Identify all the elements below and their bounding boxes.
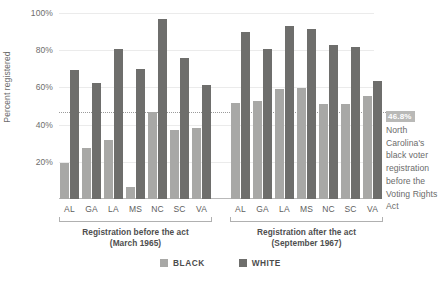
voter-registration-bar-chart: Percent registered 20%40%60%80%100% BLAC… bbox=[0, 0, 441, 285]
group-title-line-2: (September 1967) bbox=[211, 238, 402, 249]
x-tick-label: MS bbox=[124, 204, 148, 214]
legend-item: WHITE bbox=[239, 258, 281, 268]
group-bracket bbox=[59, 217, 212, 222]
x-tick-label: NC bbox=[317, 204, 341, 214]
bar bbox=[192, 128, 201, 199]
bar bbox=[253, 101, 262, 199]
bar bbox=[70, 70, 79, 199]
x-tick-label: LA bbox=[102, 204, 126, 214]
bar bbox=[341, 104, 350, 199]
bar bbox=[180, 58, 189, 199]
bar bbox=[82, 148, 91, 199]
bar bbox=[373, 81, 382, 199]
bar bbox=[329, 45, 338, 199]
group-title-line-1: Registration after the act bbox=[211, 227, 402, 238]
x-tick-label: NC bbox=[146, 204, 170, 214]
reference-annotation-text: North Carolina's black voter registratio… bbox=[386, 124, 441, 213]
bar bbox=[263, 49, 272, 199]
x-tick-label: AL bbox=[58, 204, 82, 214]
reference-value-badge: 46.8% bbox=[386, 111, 415, 122]
bar bbox=[60, 163, 69, 199]
group-title: Registration after the act(September 196… bbox=[211, 227, 402, 249]
bar bbox=[231, 103, 240, 199]
bar bbox=[202, 85, 211, 199]
bar bbox=[319, 104, 328, 199]
group-title: Registration before the act(March 1965) bbox=[40, 227, 231, 249]
x-tick-label: VA bbox=[361, 204, 385, 214]
group-title-line-1: Registration before the act bbox=[40, 227, 231, 238]
bar bbox=[170, 130, 179, 199]
bar bbox=[363, 96, 372, 199]
bar bbox=[275, 89, 284, 199]
bar bbox=[297, 88, 306, 199]
bar bbox=[241, 32, 250, 199]
bar-group bbox=[60, 13, 214, 199]
y-tick-label: 20% bbox=[36, 158, 53, 167]
y-tick-label: 40% bbox=[36, 120, 53, 129]
reference-annotation: 46.8% North Carolina's black voter regis… bbox=[386, 105, 441, 213]
bar bbox=[114, 49, 123, 199]
group-bracket bbox=[230, 217, 383, 222]
bar bbox=[136, 69, 145, 199]
x-tick-label: MS bbox=[295, 204, 319, 214]
legend-label: BLACK bbox=[173, 258, 205, 268]
x-tick-label: GA bbox=[80, 204, 104, 214]
x-tick-label: AL bbox=[229, 204, 253, 214]
x-tick-label: SC bbox=[168, 204, 192, 214]
legend-swatch bbox=[239, 259, 247, 267]
chart-legend: BLACKWHITE bbox=[0, 258, 441, 268]
bar bbox=[158, 19, 167, 199]
legend-swatch bbox=[160, 259, 168, 267]
bar bbox=[104, 140, 113, 199]
plot-area: 20%40%60%80%100% bbox=[59, 13, 374, 199]
bar-group bbox=[231, 13, 385, 199]
y-tick-label: 100% bbox=[31, 9, 53, 18]
bar bbox=[92, 83, 101, 199]
group-title-line-2: (March 1965) bbox=[40, 238, 231, 249]
x-tick-label: SC bbox=[339, 204, 363, 214]
y-axis-title-text: Percent registered bbox=[2, 22, 12, 152]
y-tick-label: 80% bbox=[36, 46, 53, 55]
bar bbox=[285, 26, 294, 199]
y-axis-title: Percent registered bbox=[2, 0, 16, 22]
bar bbox=[126, 187, 135, 199]
x-tick-label: VA bbox=[190, 204, 214, 214]
bar bbox=[351, 47, 360, 199]
bar bbox=[148, 112, 157, 199]
bar bbox=[307, 29, 316, 199]
x-tick-label: GA bbox=[251, 204, 275, 214]
y-tick-label: 60% bbox=[36, 83, 53, 92]
legend-item: BLACK bbox=[160, 258, 205, 268]
x-tick-label: LA bbox=[273, 204, 297, 214]
legend-label: WHITE bbox=[252, 258, 281, 268]
